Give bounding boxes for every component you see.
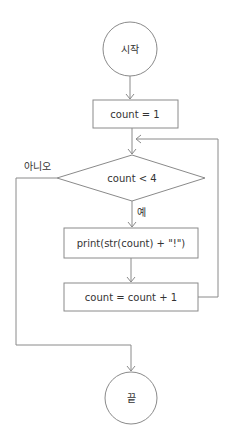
arrow-init-to-condition: [128, 128, 136, 154]
yes-label: 예: [137, 207, 146, 218]
loop-back-arrow: [136, 135, 218, 297]
flowchart: 시작 count = 1 count < 4 아니오 예 print(str(c…: [0, 0, 233, 445]
increment-box: count = count + 1: [64, 283, 198, 311]
arrow-print-to-increment: [127, 258, 135, 282]
increment-label: count = count + 1: [85, 292, 177, 303]
yes-branch-arrow: [128, 201, 136, 227]
arrow-start-to-init: [126, 76, 134, 99]
condition-label: count < 4: [107, 173, 156, 184]
print-box: print(str(count) + "!"): [64, 228, 198, 258]
start-node: 시작: [103, 22, 157, 76]
print-label: print(str(count) + "!"): [77, 238, 186, 249]
condition-diamond: count < 4: [57, 155, 205, 201]
init-box: count = 1: [93, 100, 178, 128]
no-branch-arrow: [16, 178, 135, 371]
init-label: count = 1: [110, 109, 159, 120]
start-label: 시작: [121, 44, 139, 55]
end-node: 끝: [105, 372, 157, 424]
no-label: 아니오: [24, 161, 51, 172]
end-label: 끝: [127, 393, 136, 404]
